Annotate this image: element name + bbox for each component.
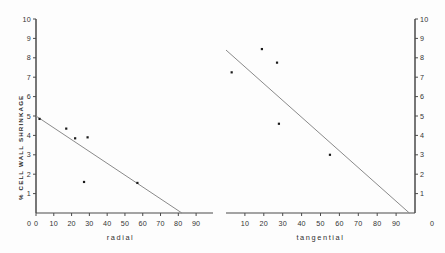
regression-line xyxy=(226,50,409,213)
regression-line xyxy=(36,116,182,213)
plot-vector-layer xyxy=(0,0,445,253)
data-point xyxy=(278,123,280,125)
data-series-group xyxy=(36,48,409,213)
data-point xyxy=(261,48,263,50)
figure-canvas: % CELL WALL SHRINKAGE 123456789100102030… xyxy=(0,0,445,253)
data-point xyxy=(38,118,40,120)
data-point xyxy=(86,136,88,138)
data-point xyxy=(74,137,76,139)
data-point xyxy=(276,62,278,64)
data-point xyxy=(231,71,233,73)
data-point xyxy=(329,154,331,156)
data-point xyxy=(65,128,67,130)
data-point xyxy=(136,182,138,184)
axes-group xyxy=(33,19,418,216)
data-point xyxy=(83,181,85,183)
